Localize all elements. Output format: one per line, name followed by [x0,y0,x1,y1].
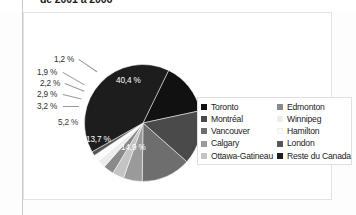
document-page: de 2001 à 2006 14,4 % 40,4 % 14,9 % 13,7… [0,0,356,215]
legend-item-label: Reste du Canada [287,152,351,161]
slice-label-montreal: 14,9 % [121,143,146,152]
legend-swatch-icon [201,153,207,159]
legend-item[interactable]: Montréal [201,113,273,125]
legend-swatch-icon [277,128,283,134]
legend-swatch-icon [277,141,283,147]
slice-label-toronto: 14,4 % [78,37,103,46]
legend-item-label: Toronto [211,103,238,112]
leader-line-ottawa [63,106,79,107]
legend-column-left: TorontoMontréalVancouverCalgaryOttawa-Ga… [201,101,273,162]
legend-swatch-icon [201,128,207,134]
legend-swatch-icon [277,104,283,110]
legend-item[interactable]: Edmonton [277,101,349,113]
title-strip: de 2001 à 2006 [0,0,356,12]
slice-label-ottawa-gatineau: 3,2 % [37,102,57,111]
legend-item[interactable]: Reste du Canada [277,150,349,162]
legend-item-label: Hamilton [287,127,319,136]
legend-item[interactable]: Hamilton [277,125,349,137]
legend-swatch-icon [201,141,207,147]
legend-item-label: Montréal [211,115,243,124]
legend-item[interactable]: London [277,138,349,150]
legend-item-label: Edmonton [287,103,325,112]
legend-item[interactable]: Toronto [201,101,273,113]
chart-legend: TorontoMontréalVancouverCalgaryOttawa-Ga… [197,97,352,165]
legend-item-label: Calgary [211,139,239,148]
leader-line-edmonton [63,94,82,100]
legend-item-label: London [287,139,314,148]
slice-label-winnipeg: 2,2 % [40,79,60,88]
legend-item-label: Ottawa-Gatineau [211,152,273,161]
page-title: de 2001 à 2006 [40,0,112,5]
legend-item-label: Winnipeg [287,115,321,124]
legend-swatch-icon [277,153,283,159]
legend-item[interactable]: Calgary [201,138,273,150]
page-frame-bottom-rule [22,206,23,215]
legend-item-label: Vancouver [211,127,250,136]
legend-swatch-icon [201,104,207,110]
legend-swatch-icon [201,116,207,122]
pie-chart-svg [84,64,202,182]
legend-item[interactable]: Vancouver [201,125,273,137]
slice-label-reste: 40,4 % [116,76,141,85]
pie-chart [84,64,202,182]
slice-label-calgary: 5,2 % [58,118,78,127]
chart-panel: 14,4 % 40,4 % 14,9 % 13,7 % 5,2 % 3,2 % … [23,12,332,200]
slice-label-vancouver: 13,7 % [86,135,111,144]
slice-label-edmonton: 2,9 % [37,90,57,99]
legend-column-right: EdmontonWinnipegHamiltonLondonReste du C… [277,101,349,162]
slice-label-london: 1,2 % [54,55,74,64]
legend-item[interactable]: Winnipeg [277,113,349,125]
slice-label-hamilton: 1,9 % [37,68,57,77]
pie-slices [84,65,201,182]
legend-item[interactable]: Ottawa-Gatineau [201,150,273,162]
legend-swatch-icon [277,116,283,122]
